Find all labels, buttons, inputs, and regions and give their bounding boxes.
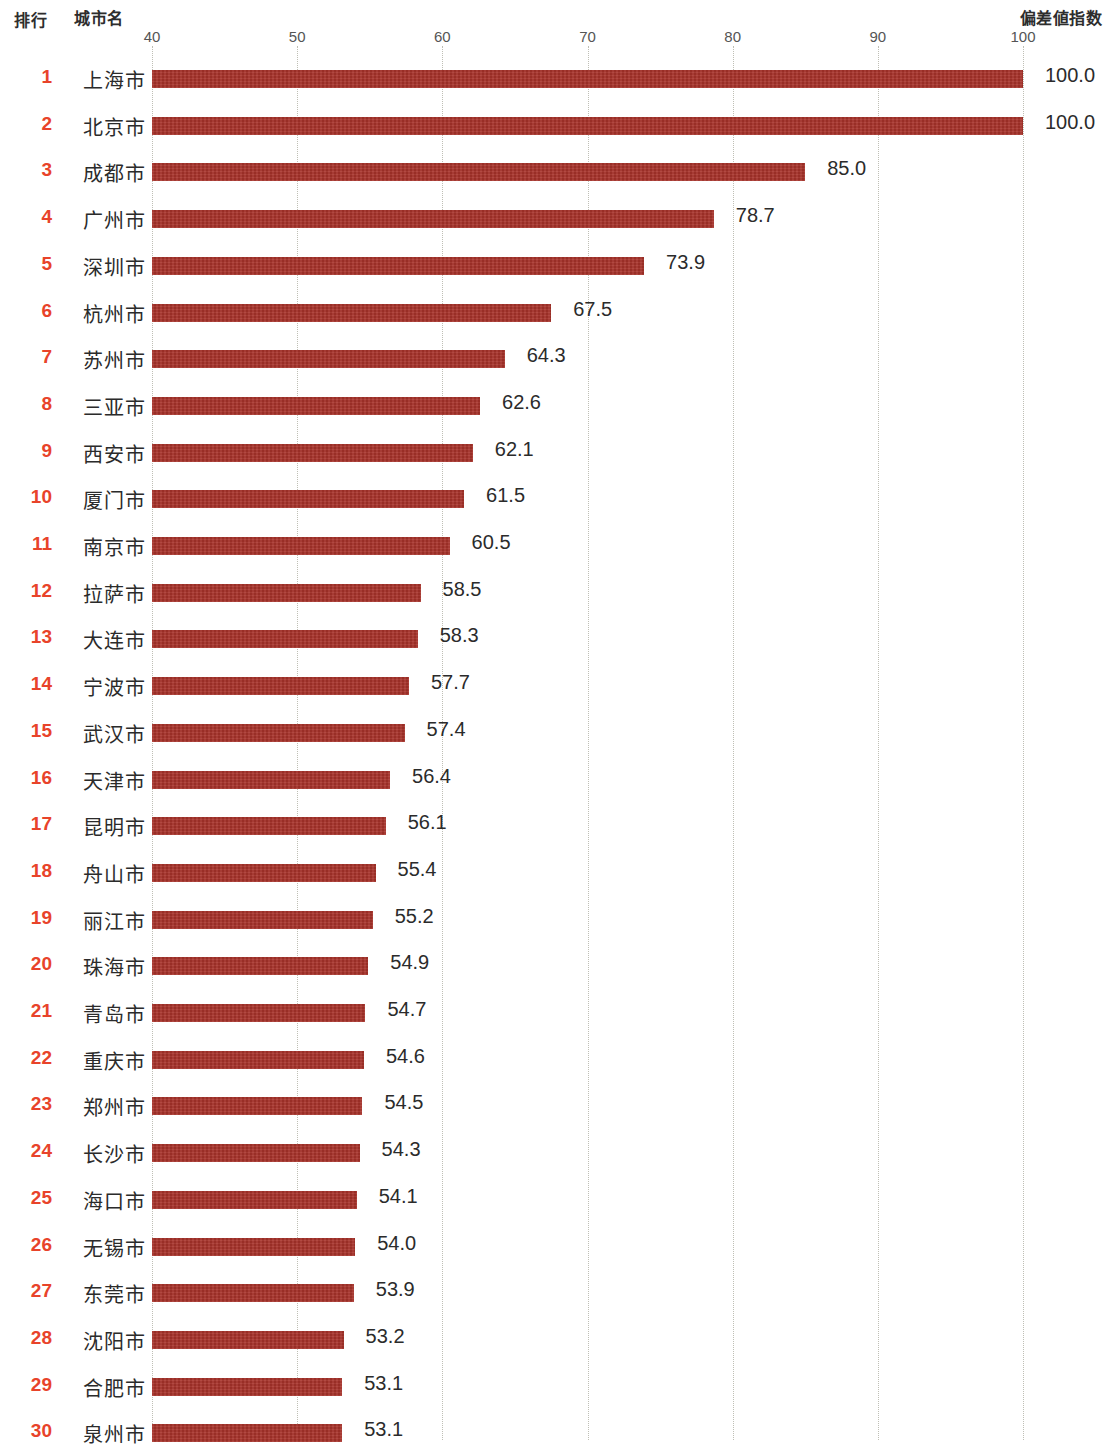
bar-value-label: 56.4 xyxy=(412,765,451,788)
table-row[interactable]: 13大连市58.3 xyxy=(0,615,1116,662)
bar-value-label: 55.4 xyxy=(398,858,437,881)
rank-number: 28 xyxy=(0,1327,52,1349)
city-name-label: 武汉市 xyxy=(68,719,146,748)
rank-number: 24 xyxy=(0,1140,52,1162)
table-row[interactable]: 28沈阳市53.2 xyxy=(0,1316,1116,1363)
table-row[interactable]: 22重庆市54.6 xyxy=(0,1036,1116,1083)
table-row[interactable]: 27东莞市53.9 xyxy=(0,1269,1116,1316)
bar xyxy=(152,630,418,648)
table-row[interactable]: 7苏州市64.3 xyxy=(0,335,1116,382)
table-row[interactable]: 8三亚市62.6 xyxy=(0,382,1116,429)
table-row[interactable]: 19丽江市55.2 xyxy=(0,896,1116,943)
bar xyxy=(152,1284,354,1302)
table-row[interactable]: 16天津市56.4 xyxy=(0,756,1116,803)
city-name-label: 深圳市 xyxy=(68,252,146,281)
city-name-label: 天津市 xyxy=(68,766,146,795)
rank-number: 3 xyxy=(0,159,52,181)
city-name-label: 三亚市 xyxy=(68,392,146,421)
rank-number: 26 xyxy=(0,1234,52,1256)
rank-number: 7 xyxy=(0,346,52,368)
city-name-label: 东莞市 xyxy=(68,1279,146,1308)
table-row[interactable]: 1上海市100.0 xyxy=(0,55,1116,102)
rank-number: 11 xyxy=(0,533,52,555)
table-row[interactable]: 29合肥市53.1 xyxy=(0,1363,1116,1410)
table-row[interactable]: 2北京市100.0 xyxy=(0,102,1116,149)
table-row[interactable]: 6杭州市67.5 xyxy=(0,289,1116,336)
bar-value-label: 53.9 xyxy=(376,1278,415,1301)
bar-value-label: 62.1 xyxy=(495,438,534,461)
city-name-label: 丽江市 xyxy=(68,906,146,935)
table-row[interactable]: 25海口市54.1 xyxy=(0,1176,1116,1223)
table-row[interactable]: 17昆明市56.1 xyxy=(0,802,1116,849)
table-row[interactable]: 11南京市60.5 xyxy=(0,522,1116,569)
bar xyxy=(152,490,464,508)
bar xyxy=(152,864,376,882)
bar-value-label: 54.0 xyxy=(377,1232,416,1255)
rank-number: 23 xyxy=(0,1093,52,1115)
rank-number: 18 xyxy=(0,860,52,882)
city-name-label: 珠海市 xyxy=(68,952,146,981)
x-axis-tick-label: 80 xyxy=(724,28,741,45)
rank-number: 6 xyxy=(0,300,52,322)
table-row[interactable]: 18舟山市55.4 xyxy=(0,849,1116,896)
table-row[interactable]: 24长沙市54.3 xyxy=(0,1129,1116,1176)
city-name-label: 拉萨市 xyxy=(68,579,146,608)
bar-value-label: 100.0 xyxy=(1045,111,1095,134)
city-name-label: 重庆市 xyxy=(68,1046,146,1075)
table-row[interactable]: 14宁波市57.7 xyxy=(0,662,1116,709)
table-row[interactable]: 5深圳市73.9 xyxy=(0,242,1116,289)
rank-number: 27 xyxy=(0,1280,52,1302)
bar xyxy=(152,1051,364,1069)
x-axis-tick-label: 40 xyxy=(144,28,161,45)
bar-value-label: 57.7 xyxy=(431,671,470,694)
bar xyxy=(152,210,714,228)
bar-value-label: 62.6 xyxy=(502,391,541,414)
table-row[interactable]: 3成都市85.0 xyxy=(0,148,1116,195)
bar-value-label: 54.9 xyxy=(390,951,429,974)
bar xyxy=(152,1331,344,1349)
bar-value-label: 64.3 xyxy=(527,344,566,367)
city-name-label: 舟山市 xyxy=(68,859,146,888)
bar xyxy=(152,957,368,975)
city-name-label: 郑州市 xyxy=(68,1092,146,1121)
bar xyxy=(152,350,505,368)
bar-value-label: 60.5 xyxy=(472,531,511,554)
rank-number: 20 xyxy=(0,953,52,975)
x-axis-tick-label: 100 xyxy=(1010,28,1035,45)
table-row[interactable]: 26无锡市54.0 xyxy=(0,1223,1116,1270)
table-row[interactable]: 4广州市78.7 xyxy=(0,195,1116,242)
x-axis-tick-label: 90 xyxy=(869,28,886,45)
table-row[interactable]: 10厦门市61.5 xyxy=(0,475,1116,522)
table-row[interactable]: 9西安市62.1 xyxy=(0,429,1116,476)
rank-number: 1 xyxy=(0,66,52,88)
table-row[interactable]: 30泉州市53.1 xyxy=(0,1409,1116,1448)
city-name-label: 上海市 xyxy=(68,65,146,94)
bar-value-label: 58.5 xyxy=(443,578,482,601)
bar xyxy=(152,1097,362,1115)
table-row[interactable]: 15武汉市57.4 xyxy=(0,709,1116,756)
rank-number: 9 xyxy=(0,440,52,462)
bar xyxy=(152,537,450,555)
table-row[interactable]: 20珠海市54.9 xyxy=(0,942,1116,989)
bar xyxy=(152,304,551,322)
bar xyxy=(152,397,480,415)
city-name-label: 长沙市 xyxy=(68,1139,146,1168)
bar xyxy=(152,724,405,742)
bar xyxy=(152,771,390,789)
bar-value-label: 54.6 xyxy=(386,1045,425,1068)
city-name-label: 泉州市 xyxy=(68,1419,146,1448)
rank-number: 17 xyxy=(0,813,52,835)
bar-value-label: 53.1 xyxy=(364,1372,403,1395)
table-row[interactable]: 23郑州市54.5 xyxy=(0,1082,1116,1129)
city-name-label: 沈阳市 xyxy=(68,1326,146,1355)
table-row[interactable]: 21青岛市54.7 xyxy=(0,989,1116,1036)
bar xyxy=(152,444,473,462)
city-name-label: 西安市 xyxy=(68,439,146,468)
bar xyxy=(152,1004,365,1022)
table-row[interactable]: 12拉萨市58.5 xyxy=(0,569,1116,616)
bar-value-label: 57.4 xyxy=(427,718,466,741)
bar-value-label: 53.2 xyxy=(366,1325,405,1348)
rank-number: 4 xyxy=(0,206,52,228)
bar xyxy=(152,117,1023,135)
city-name-label: 合肥市 xyxy=(68,1373,146,1402)
